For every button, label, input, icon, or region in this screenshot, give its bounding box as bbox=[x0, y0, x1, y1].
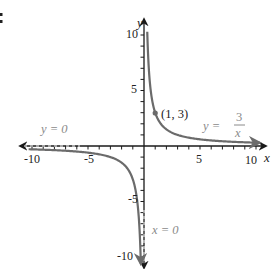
y-tick-label: -10 bbox=[117, 249, 133, 263]
y-tick-label: 5 bbox=[131, 82, 137, 96]
x-axis bbox=[20, 146, 266, 150]
function-label-lhs: y = bbox=[201, 119, 220, 133]
point-label: (1, 3) bbox=[161, 107, 188, 121]
y-tick-label: -5 bbox=[128, 192, 138, 206]
x-tick-label: 10 bbox=[245, 153, 257, 167]
x-axis-label: x bbox=[263, 150, 270, 165]
function-label-denominator: x bbox=[234, 126, 241, 140]
x-tick-label: 5 bbox=[196, 152, 202, 166]
point-marker bbox=[153, 110, 158, 115]
hyperbola-graph: (1, 3) -10 -5 5 10 10 5 -5 -10 x y y = 0… bbox=[0, 0, 273, 269]
curve-negative-branch bbox=[29, 149, 141, 263]
y-axis-label: y bbox=[135, 15, 143, 30]
panel-marker bbox=[0, 13, 3, 23]
function-label: y = 3 x bbox=[201, 110, 245, 140]
function-label-numerator: 3 bbox=[236, 110, 242, 124]
y-axis bbox=[141, 19, 145, 268]
vertical-asymptote-label: x = 0 bbox=[151, 223, 179, 237]
x-tick-label: -10 bbox=[24, 152, 40, 166]
x-tick-label: -5 bbox=[84, 152, 94, 166]
horizontal-asymptote-label: y = 0 bbox=[39, 122, 68, 136]
